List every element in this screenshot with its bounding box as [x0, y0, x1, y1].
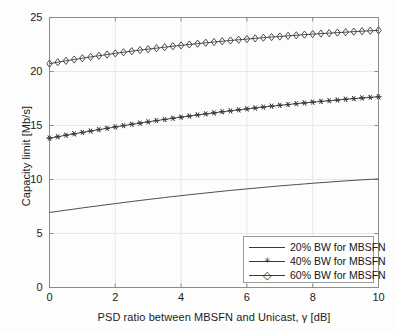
legend-label: 40% BW for MBSFN: [290, 255, 386, 267]
marker-star: [269, 104, 275, 109]
legend-sample-star-icon: ✳: [247, 255, 287, 268]
marker-star: [104, 126, 110, 131]
legend-line: [249, 247, 285, 248]
marker-star: [334, 98, 340, 103]
diamond-icon: ◇: [263, 270, 271, 281]
marker-star: [71, 131, 77, 136]
star-icon: ✳: [264, 257, 271, 265]
legend-item: ◇60% BW for MBSFN: [244, 268, 373, 282]
marker-star: [326, 98, 332, 103]
marker-star: [293, 101, 299, 106]
legend-sample-none-icon: [247, 241, 287, 254]
chart-legend: 20% BW for MBSFN✳40% BW for MBSFN◇60% BW…: [243, 236, 374, 283]
legend-item: ✳40% BW for MBSFN: [244, 254, 373, 268]
marker-star: [63, 133, 69, 138]
legend-label: 20% BW for MBSFN: [290, 241, 386, 253]
marker-star: [359, 95, 365, 100]
marker-star: [228, 108, 234, 113]
marker-star: [96, 127, 102, 132]
series-line: [50, 179, 379, 212]
legend-item: 20% BW for MBSFN: [244, 240, 373, 254]
series-1: [47, 94, 382, 140]
marker-star: [343, 97, 349, 102]
marker-star: [285, 102, 291, 107]
marker-star: [252, 105, 258, 110]
legend-sample-diamond-icon: ◇: [247, 269, 287, 282]
marker-star: [318, 99, 324, 104]
marker-star: [351, 96, 357, 101]
marker-star: [154, 118, 160, 123]
marker-star: [277, 103, 283, 108]
marker-star: [236, 107, 242, 112]
legend-label: 60% BW for MBSFN: [290, 269, 386, 281]
series-line: [50, 97, 379, 138]
marker-star: [195, 112, 201, 117]
marker-star: [260, 105, 266, 110]
marker-star: [80, 130, 86, 135]
series-0: [50, 179, 379, 212]
marker-star: [186, 113, 192, 118]
marker-star: [121, 123, 127, 128]
marker-star: [367, 95, 373, 100]
marker-star: [170, 116, 176, 121]
marker-star: [145, 119, 151, 124]
marker-star: [302, 100, 308, 105]
marker-star: [203, 111, 209, 116]
chart-figure: Capacity limit [Mb/s] PSD ratio between …: [0, 0, 396, 331]
series-2: [47, 27, 382, 67]
marker-star: [88, 129, 94, 134]
marker-star: [162, 117, 168, 122]
marker-star: [55, 134, 61, 139]
marker-star: [219, 109, 225, 114]
marker-star: [137, 121, 143, 126]
marker-star: [211, 110, 217, 115]
marker-star: [129, 122, 135, 127]
